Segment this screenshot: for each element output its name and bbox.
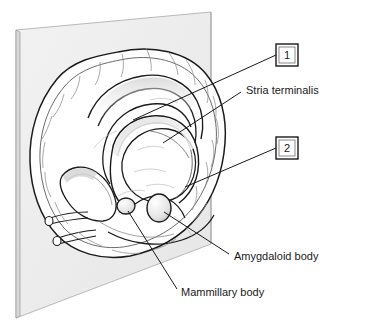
structure-amygdaloid-body xyxy=(147,194,171,222)
label-stria-terminalis: Stria terminalis xyxy=(246,84,319,96)
callout-box-2[interactable]: 2 xyxy=(276,137,298,159)
callout-box-2-number: 2 xyxy=(284,142,290,154)
olfactory-bulb-upper xyxy=(45,217,53,226)
olfactory-bulb-lower xyxy=(53,237,61,246)
plane-left-thickness-edge xyxy=(16,30,20,318)
anatomical-figure: 1 2 Stria terminalis Amygdaloid body Mam… xyxy=(0,0,368,328)
label-mammillary-body: Mammillary body xyxy=(181,286,265,298)
label-amygdaloid-body: Amygdaloid body xyxy=(234,250,319,262)
callout-box-1-number: 1 xyxy=(284,49,290,61)
structure-mammillary-body xyxy=(117,198,135,214)
callout-box-1[interactable]: 1 xyxy=(276,44,298,66)
